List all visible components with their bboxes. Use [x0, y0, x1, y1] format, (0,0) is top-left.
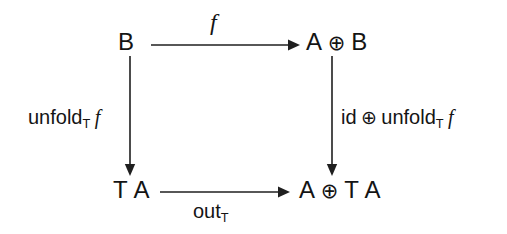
arrow-bottom-head	[278, 187, 290, 198]
arrow-top-head	[288, 40, 300, 51]
oplus-icon: ⊕	[328, 31, 346, 55]
node-bottom-right-a: A	[299, 176, 316, 203]
edge-label-top-text: f	[210, 9, 217, 35]
oplus-icon: ⊕	[361, 106, 377, 128]
edge-label-right-id: id	[341, 106, 357, 128]
node-top-left: B	[118, 30, 135, 54]
node-bottom-right-a2: A	[365, 176, 382, 203]
arrow-bottom	[160, 187, 290, 198]
edge-label-right: id⊕unfoldTf	[341, 107, 454, 130]
arrow-top	[151, 40, 300, 51]
edge-label-right-subscript: T	[436, 116, 444, 131]
node-bottom-left: TA	[113, 178, 150, 202]
node-top-right-b: B	[351, 28, 368, 55]
edge-label-left-subscript: T	[83, 116, 91, 131]
arrow-right	[327, 56, 337, 176]
arrow-left	[125, 56, 135, 176]
node-bottom-left-t: T	[113, 176, 128, 203]
node-bottom-right: A⊕TA	[299, 178, 381, 202]
node-bottom-left-a: A	[133, 176, 150, 203]
edge-label-right-arg: f	[448, 106, 454, 128]
edge-label-bottom-subscript: T	[221, 210, 229, 225]
node-top-right: A⊕B	[306, 30, 368, 54]
edge-label-bottom: outT	[193, 201, 229, 224]
edge-label-left-main: unfold	[28, 106, 83, 128]
commutative-diagram: B A⊕B TA A⊕TA f unfoldTf id⊕unfoldTf out…	[0, 0, 507, 234]
edge-label-left-arg: f	[95, 106, 101, 128]
edge-label-top: f	[210, 10, 217, 34]
node-bottom-right-t: T	[344, 176, 359, 203]
arrow-left-head	[125, 164, 135, 176]
node-top-left-label: B	[118, 28, 135, 55]
node-top-right-a: A	[306, 28, 323, 55]
oplus-icon: ⊕	[321, 179, 339, 203]
arrow-right-head	[327, 164, 337, 176]
edge-label-right-main: unfold	[381, 106, 436, 128]
edge-label-bottom-main: out	[193, 200, 221, 222]
edge-label-left: unfoldTf	[28, 107, 100, 130]
